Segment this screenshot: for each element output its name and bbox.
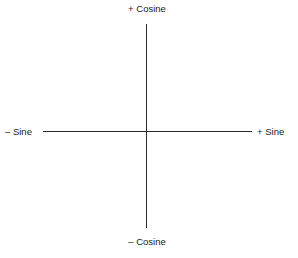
positive-sine-label: + Sine [257,126,284,138]
positive-cosine-label: + Cosine [128,3,166,15]
sine-cosine-axes-diagram: + Cosine – Cosine – Sine + Sine [0,0,298,258]
sine-axis-line [43,131,252,132]
negative-cosine-label: – Cosine [128,236,166,248]
cosine-axis-line [146,24,147,228]
negative-sine-label: – Sine [5,126,32,138]
